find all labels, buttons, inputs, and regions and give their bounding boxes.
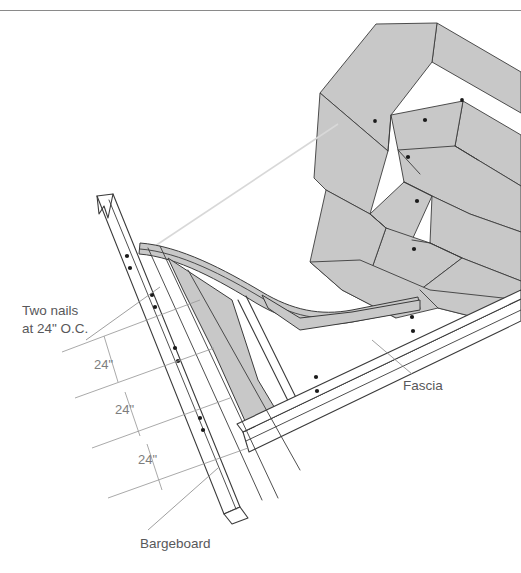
architectural-detail-drawing: .ln { stroke:#3b3b3b; stroke-width:1.1; … [0, 0, 521, 573]
bargeboard-label: Bargeboard [140, 536, 211, 551]
shingle-assembly [310, 23, 521, 318]
leader-bargeboard [148, 468, 218, 530]
nail-dot [410, 315, 414, 319]
dimension-label-3: 24" [138, 452, 157, 467]
nail-dot [128, 266, 132, 270]
nail-dot [411, 329, 415, 333]
nail-dot [153, 305, 157, 309]
nail-dot [314, 375, 318, 379]
nail-dot [423, 118, 427, 122]
annotation-two-nails: Two nails at 24" O.C. [22, 303, 88, 336]
nail-dot [198, 416, 202, 420]
nail-dot [460, 98, 464, 102]
shingle-course-1 [432, 23, 521, 113]
nail-dot [373, 119, 377, 123]
nail-dot [125, 254, 129, 258]
nail-dot [315, 389, 319, 393]
two-nails-line2: at 24" O.C. [22, 321, 88, 336]
nail-dot [412, 247, 416, 251]
fascia-label: Fascia [403, 378, 443, 393]
dimension-label-2: 24" [115, 402, 134, 417]
alignment-guide-line [146, 124, 338, 252]
diagram-canvas: .ln { stroke:#3b3b3b; stroke-width:1.1; … [0, 0, 521, 573]
nail-dot [173, 346, 177, 350]
two-nails-line1: Two nails [22, 303, 79, 318]
nail-dot [406, 155, 410, 159]
dimension-label-1: 24" [94, 357, 113, 372]
nail-dot [415, 199, 419, 203]
nail-dot [201, 428, 205, 432]
